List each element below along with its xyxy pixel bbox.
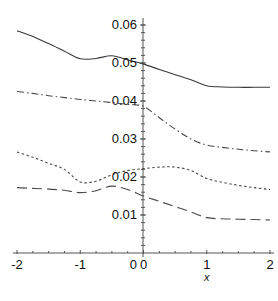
x-axis-label-neg2: -2 [2, 258, 32, 271]
x-axis-label-1: 1 [192, 258, 222, 271]
x-axis-label-2: 2 [255, 258, 278, 271]
y-axis-label-0.05: 0.05 [97, 56, 137, 69]
y-axis-label-0.01: 0.01 [97, 208, 137, 221]
x-axis-label-neg1: -1 [65, 258, 95, 271]
axes-group [13, 18, 274, 257]
plot-area [0, 0, 278, 301]
y-axis-label-0.03: 0.03 [97, 132, 137, 145]
x-axis-label-0: 0 [129, 258, 159, 271]
y-axis-label-0.04: 0.04 [97, 94, 137, 107]
y-axis-label-0.06: 0.06 [97, 18, 137, 31]
y-axis-label-0.02: 0.02 [97, 170, 137, 183]
x-axis-title: x [197, 272, 217, 283]
line-chart: 0.010.020.030.040.050.060-2-1012x [0, 0, 278, 301]
